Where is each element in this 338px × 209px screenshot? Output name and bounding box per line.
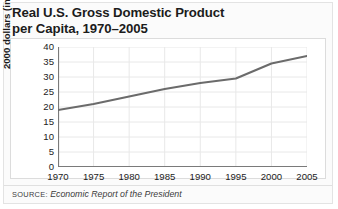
plot-area [58, 47, 307, 167]
source-divider [4, 185, 332, 186]
chart-title-line-1: Real U.S. Gross Domestic Product [12, 5, 312, 21]
source-note: SOURCE: Economic Report of the President [12, 188, 182, 201]
x-tick-label: 1995 [216, 171, 256, 183]
plot-svg [58, 47, 307, 167]
x-tick-label: 2000 [251, 171, 291, 183]
y-tick-label: 25 [32, 87, 54, 97]
y-axis-label: 2000 dollars (in thousands) [0, 0, 14, 70]
x-tick-label: 1980 [109, 171, 149, 183]
y-tick-label: 15 [32, 117, 54, 127]
chart-title-line-2: per Capita, 1970–2005 [12, 21, 312, 37]
data-line-series [58, 56, 307, 110]
source-label: SOURCE: [12, 190, 48, 199]
source-name: Economic Report of the President [50, 189, 182, 199]
x-tick-label: 1990 [180, 171, 220, 183]
y-tick-label: 20 [32, 102, 54, 112]
chart-figure: Real U.S. Gross Domestic Product per Cap… [0, 0, 338, 209]
chart-title: Real U.S. Gross Domestic Product per Cap… [12, 5, 312, 36]
horizontal-gridlines [58, 47, 307, 152]
x-tick-label: 1970 [38, 171, 78, 183]
x-axis-tick-labels: 19701975198019851990199520002005 [0, 171, 338, 185]
y-tick-label: 40 [32, 42, 54, 52]
y-tick-label: 10 [32, 132, 54, 142]
y-tick-label: 35 [32, 57, 54, 67]
y-tick-label: 5 [32, 147, 54, 157]
y-tick-label: 30 [32, 72, 54, 82]
x-tick-label: 1975 [74, 171, 114, 183]
x-tick-label: 2005 [287, 171, 327, 183]
x-tick-label: 1985 [145, 171, 185, 183]
